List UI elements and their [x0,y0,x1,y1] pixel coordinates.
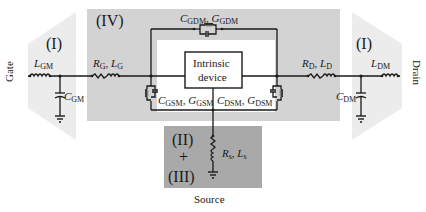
intrinsic-device-label-line1: Intrinsic [193,58,230,69]
source-terminal-label: Source [194,194,225,205]
c-dm-label: CDM [336,91,356,104]
region-i-left-label: (I) [46,36,62,52]
intrinsic-device-label-line2: device [198,72,227,83]
gate-terminal-label: Gate [4,61,15,82]
rg-lg-label: RG, LG [93,58,123,71]
rd-ld-label: RD, LD [302,58,332,71]
l-gm-label: LGM [34,58,53,71]
cgsm-ggsm-label: CGSM, GGSM [158,95,213,108]
drain-terminal-label: Drain [411,60,422,85]
region-i-right-label: (I) [356,36,372,52]
region-ii-label: (II) [172,132,193,148]
region-iii-label: (III) [168,169,195,185]
rs-ls-label: Rs, Ls [222,148,247,161]
l-dm-label: LDM [371,58,390,71]
c-gm-label: CGM [64,91,84,104]
region-iv-label: (IV) [96,13,124,29]
circuit-diagram: (I) (IV) (I) (II) + (III) Gate Drain Sou… [0,0,426,212]
region-plus-label: + [179,149,188,165]
cdsm-gdsm-label: CDSM, GDSM [217,95,272,108]
cgdm-ggdm-label: CGDM, GGDM [180,13,238,26]
